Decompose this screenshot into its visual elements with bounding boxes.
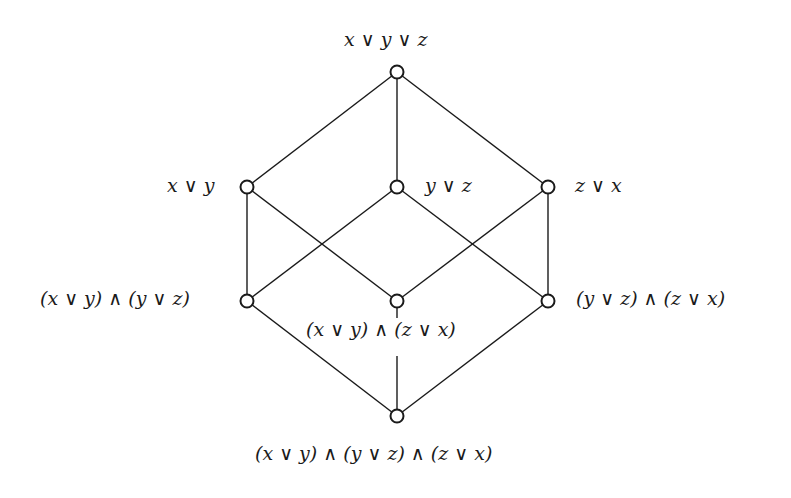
node-z-or-x bbox=[542, 181, 555, 194]
node-bottom bbox=[391, 410, 404, 423]
node-xy-and-yz bbox=[241, 295, 254, 308]
edge-top-xy bbox=[247, 72, 397, 187]
label-bottom: (x ∨ y) ∧ (y ∨ z) ∧ (z ∨ x) bbox=[255, 444, 492, 463]
edges bbox=[247, 72, 548, 416]
label-top: x ∨ y ∨ z bbox=[344, 30, 427, 49]
label-y-or-z: y ∨ z bbox=[425, 176, 472, 195]
label-yz-and-zx: (y ∨ z) ∧ (z ∨ x) bbox=[576, 289, 725, 308]
hasse-diagram bbox=[0, 0, 791, 498]
node-top bbox=[391, 66, 404, 79]
edge-top-zx bbox=[397, 72, 548, 187]
node-y-or-z bbox=[391, 181, 404, 194]
label-xy-and-yz: (x ∨ y) ∧ (y ∨ z) bbox=[40, 289, 190, 308]
node-x-or-y bbox=[241, 181, 254, 194]
node-yz-and-zx bbox=[542, 295, 555, 308]
node-xy-and-zx bbox=[391, 295, 404, 308]
label-z-or-x: z ∨ x bbox=[575, 176, 622, 195]
label-x-or-y: x ∨ y bbox=[167, 176, 214, 195]
label-xy-and-zx: (x ∨ y) ∧ (z ∨ x) bbox=[306, 320, 456, 339]
